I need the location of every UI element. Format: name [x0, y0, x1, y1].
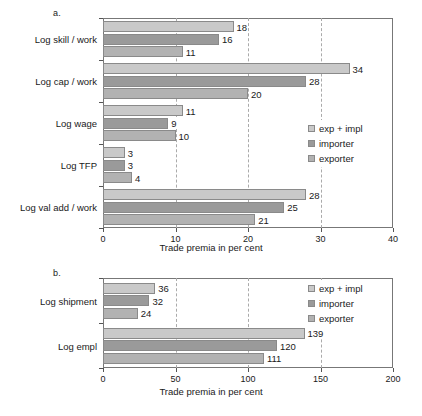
bar [103, 189, 306, 200]
x-axis-tick-label: 150 [313, 374, 328, 384]
bar-value-label: 11 [185, 46, 197, 57]
legend-swatch-icon-exporter [308, 315, 315, 322]
bar-value-label: 25 [286, 202, 299, 213]
bar [103, 118, 168, 129]
panel-a-letter: a. [53, 8, 61, 18]
legend-label-importer: importer [319, 298, 354, 309]
bar [103, 328, 305, 339]
legend-swatch-icon-exp-impl [308, 125, 315, 132]
panel-b-letter: b. [53, 268, 61, 278]
bar [103, 160, 125, 171]
legend-label-exp-impl: exp + impl [319, 283, 363, 294]
bar [103, 21, 234, 32]
bar-value-label: 18 [236, 21, 249, 32]
x-axis-tick [393, 368, 394, 372]
category-label: Log wage [0, 118, 97, 129]
legend-label-exp-impl: exp + impl [319, 123, 363, 134]
bar-value-label: 16 [221, 34, 234, 45]
y-axis-tick [99, 60, 103, 61]
y-axis-tick [99, 144, 103, 145]
bar-value-label: 36 [157, 283, 170, 294]
x-axis-title-b: Trade premia in per cent [0, 386, 422, 397]
figure-trade-premia: a. Log skill / work181611Log cap / work3… [0, 0, 422, 416]
bar [103, 46, 183, 57]
x-axis-tick-label: 50 [170, 374, 180, 384]
bar-value-label: 34 [352, 63, 365, 74]
legend-swatch-icon-exp-impl [308, 285, 315, 292]
category-label: Log skill / work [0, 34, 97, 45]
legend-item-exporter[interactable]: exporter [308, 311, 363, 326]
y-axis-tick [99, 18, 103, 19]
x-axis-tick [176, 228, 177, 232]
category-label: Log cap / work [0, 76, 97, 87]
x-axis-tick [103, 368, 104, 372]
bar-value-label: 11 [185, 105, 197, 116]
y-axis-tick [99, 186, 103, 187]
bar [103, 105, 183, 116]
x-axis-tick-label: 100 [240, 374, 255, 384]
bar [103, 202, 284, 213]
legend-item-exp-impl[interactable]: exp + impl [308, 121, 363, 136]
bar [103, 147, 125, 158]
x-axis-tick [248, 368, 249, 372]
bar [103, 214, 255, 225]
legend-item-importer[interactable]: importer [308, 136, 363, 151]
legend-swatch-icon-importer [308, 140, 315, 147]
category-label: Log TFP [0, 160, 97, 171]
x-axis-tick [248, 228, 249, 232]
bar-value-label: 4 [134, 172, 141, 183]
panel-a: a. Log skill / work181611Log cap / work3… [0, 0, 422, 258]
bar-value-label: 139 [307, 328, 325, 339]
bar-value-label: 9 [170, 118, 177, 129]
bar [103, 88, 248, 99]
y-axis-tick [99, 278, 103, 279]
bar [103, 283, 155, 294]
x-axis-tick [176, 368, 177, 372]
bar-value-label: 32 [151, 295, 164, 306]
bar [103, 63, 350, 74]
x-axis-tick-label: 200 [385, 374, 400, 384]
bar-value-label: 28 [308, 189, 321, 200]
legend-swatch-icon-exporter [308, 155, 315, 162]
bar-value-label: 10 [178, 130, 191, 141]
legend-b: exp + impl importer exporter [306, 280, 365, 327]
category-label: Log empl [0, 340, 97, 351]
bar [103, 130, 176, 141]
legend-label-exporter: exporter [319, 313, 354, 324]
legend-label-importer: importer [319, 138, 354, 149]
bar-value-label: 24 [140, 308, 153, 319]
legend-item-exporter[interactable]: exporter [308, 151, 363, 166]
bar [103, 353, 264, 364]
bar-value-label: 28 [308, 76, 321, 87]
legend-swatch-icon-importer [308, 300, 315, 307]
bar [103, 34, 219, 45]
legend-label-exporter: exporter [319, 153, 354, 164]
bar-value-label: 3 [127, 147, 134, 158]
x-axis-tick-label: 0 [100, 374, 105, 384]
legend-item-importer[interactable]: importer [308, 296, 363, 311]
bar-value-label: 20 [250, 88, 263, 99]
category-label: Log shipment [0, 295, 97, 306]
x-axis-title-a: Trade premia in per cent [0, 242, 422, 253]
bar-value-label: 3 [127, 160, 134, 171]
legend-a: exp + impl importer exporter [306, 120, 365, 167]
bar-value-label: 111 [266, 353, 282, 364]
bar-value-label: 21 [257, 214, 270, 225]
panel-b: b. Log shipment363224Log empl13912011105… [0, 258, 422, 416]
x-axis-tick [321, 368, 322, 372]
bar [103, 172, 132, 183]
category-label: Log val add / work [0, 202, 97, 213]
bar [103, 340, 277, 351]
x-axis-tick [321, 228, 322, 232]
x-axis-tick [393, 228, 394, 232]
legend-item-exp-impl[interactable]: exp + impl [308, 281, 363, 296]
bar [103, 76, 306, 87]
bar [103, 295, 149, 306]
bar-value-label: 120 [279, 340, 297, 351]
y-axis-tick [99, 102, 103, 103]
y-axis-tick [99, 323, 103, 324]
x-axis-tick [103, 228, 104, 232]
bar [103, 308, 138, 319]
